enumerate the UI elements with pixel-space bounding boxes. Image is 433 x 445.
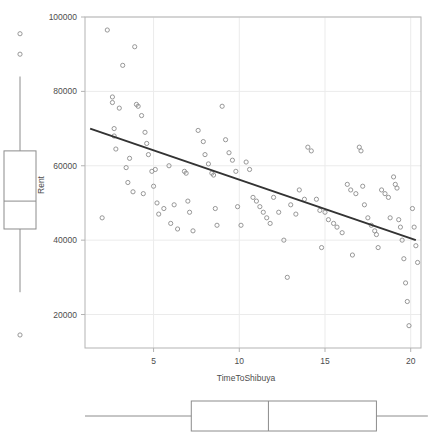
scatter-point	[374, 232, 378, 236]
scatter-point	[131, 190, 135, 194]
scatter-point	[359, 149, 363, 153]
rent-boxplot-vertical	[4, 32, 36, 337]
scatter-point	[141, 192, 145, 196]
scatter-point	[271, 195, 275, 199]
scatter-point	[146, 153, 150, 157]
scatter-point	[397, 218, 401, 222]
scatter-point	[155, 201, 159, 205]
scatter-point	[145, 141, 149, 145]
boxplot-outlier	[18, 52, 22, 56]
scatter-point	[405, 299, 409, 303]
scatter-point	[314, 197, 318, 201]
scatter-point	[186, 199, 190, 203]
scatter-point	[362, 203, 366, 207]
scatter-point	[244, 160, 248, 164]
x-axis-ticks: 5101520	[151, 348, 416, 366]
scatter-point	[318, 208, 322, 212]
y-tick-label: 20000	[53, 310, 77, 320]
scatter-point	[162, 206, 166, 210]
regression-line	[90, 129, 416, 241]
scatter-point	[319, 245, 323, 249]
scatter-point	[247, 167, 251, 171]
chart-figure: 5101520 20000400006000080000100000 TimeT…	[0, 0, 433, 445]
scatter-point	[402, 257, 406, 261]
y-tick-label: 40000	[53, 235, 77, 245]
scatter-point	[309, 149, 313, 153]
scatter-point	[220, 104, 224, 108]
scatter-point	[383, 192, 387, 196]
scatter-point	[191, 229, 195, 233]
scatter-point	[203, 153, 207, 157]
scatter-point	[143, 130, 147, 134]
y-axis-title: Rent	[36, 175, 46, 194]
scatter-point	[294, 212, 298, 216]
scatter-point	[213, 206, 217, 210]
y-tick-label: 60000	[53, 161, 77, 171]
scatter-point	[414, 244, 418, 248]
scatter-point	[110, 100, 114, 104]
scatter-point	[223, 138, 227, 142]
scatter-point	[361, 184, 365, 188]
scatter-point	[265, 216, 269, 220]
x-axis-title: TimeToShibuya	[217, 373, 276, 383]
scatter-point	[112, 126, 116, 130]
timetoshibuya-boxplot-horizontal	[85, 401, 428, 431]
scatter-point	[175, 227, 179, 231]
x-tick-label: 10	[235, 356, 245, 366]
scatter-point	[391, 175, 395, 179]
scatter-point	[127, 156, 131, 160]
scatter-point	[251, 195, 255, 199]
scatter-point	[201, 139, 205, 143]
scatter-point	[258, 205, 262, 209]
scatter-point	[398, 225, 402, 229]
scatter-point	[354, 192, 358, 196]
boxplot-outlier	[18, 32, 22, 36]
scatter-point	[227, 151, 231, 155]
boxplot-outlier	[18, 333, 22, 337]
scatter-point	[306, 145, 310, 149]
x-tick-label: 20	[406, 356, 416, 366]
y-tick-label: 100000	[49, 12, 78, 22]
scatter-point	[277, 210, 281, 214]
scatter-point	[376, 245, 380, 249]
x-tick-label: 5	[151, 356, 156, 366]
scatter-point	[230, 158, 234, 162]
scatter-point	[395, 186, 399, 190]
fit-line	[90, 129, 416, 241]
y-axis-ticks: 20000400006000080000100000	[49, 12, 85, 320]
scatter-point	[110, 95, 114, 99]
y-tick-label: 80000	[53, 86, 77, 96]
scatter-point	[345, 182, 349, 186]
grid-lines	[85, 17, 421, 348]
scatter-point	[157, 212, 161, 216]
scatter-point	[169, 221, 173, 225]
scatter-point	[366, 216, 370, 220]
scatter-point	[105, 28, 109, 32]
scatter-point	[172, 203, 176, 207]
scatter-point	[350, 253, 354, 257]
scatter-point	[289, 203, 293, 207]
scatter-point	[388, 216, 392, 220]
scatter-point	[297, 188, 301, 192]
scatter-point	[379, 188, 383, 192]
scatter-point	[412, 225, 416, 229]
x-tick-label: 15	[320, 356, 330, 366]
scatter-point	[254, 199, 258, 203]
scatter-point	[403, 281, 407, 285]
scatter-point	[139, 113, 143, 117]
scatter-point	[126, 180, 130, 184]
scatter-point	[268, 221, 272, 225]
scatter-point	[100, 216, 104, 220]
chart-canvas: 5101520 20000400006000080000100000 TimeT…	[0, 0, 433, 445]
scatter-point	[415, 260, 419, 264]
scatter-point	[340, 231, 344, 235]
scatter-point	[326, 218, 330, 222]
scatter-point	[114, 147, 118, 151]
scatter-point	[121, 63, 125, 67]
scatter-point	[261, 210, 265, 214]
scatter-point	[285, 275, 289, 279]
scatter-point	[234, 169, 238, 173]
scatter-point	[386, 195, 390, 199]
scatter-point	[215, 223, 219, 227]
plot-frame	[85, 17, 421, 348]
